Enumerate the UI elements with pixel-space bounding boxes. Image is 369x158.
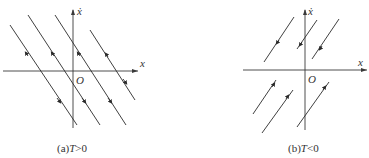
x-axis-arrow-icon: [361, 68, 367, 72]
y-axis-arrow-icon: [303, 9, 307, 15]
panel-a: x ẋ O (a)T>0: [3, 5, 145, 155]
x-axis-arrow-icon: [132, 69, 138, 73]
caption-b: (b)T<0: [288, 142, 319, 155]
y-axis-label: ẋ: [307, 5, 313, 17]
trajectories: [253, 17, 339, 133]
y-axis-label: ẋ: [76, 5, 82, 17]
y-axis-arrow-icon: [71, 9, 75, 15]
trajectory-line: [264, 17, 294, 62]
trajectory-line: [253, 80, 276, 114]
x-axis-label: x: [357, 56, 363, 68]
x-axis-label: x: [139, 57, 145, 69]
trajectory-line: [312, 19, 339, 59]
trajectory-line: [262, 90, 293, 133]
arrow-icon: [108, 98, 111, 102]
origin-label: O: [76, 74, 84, 86]
phase-portraits: x ẋ O (a)T>0 x ẋ O: [0, 0, 369, 158]
trajectory-line: [90, 30, 135, 100]
arrow-icon: [26, 53, 28, 56]
caption-a: (a)T>0: [57, 142, 88, 155]
trajectory-line: [28, 15, 100, 125]
arrow-icon: [82, 98, 85, 102]
trajectories: [10, 15, 135, 125]
origin-label: O: [308, 73, 316, 85]
panel-b: x ẋ O (b)T<0: [243, 5, 367, 155]
